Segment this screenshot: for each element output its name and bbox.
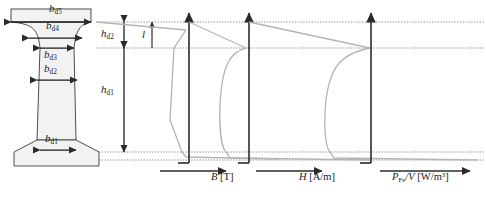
plot-field-strength: [189, 13, 372, 171]
plot-iron-loss-density: [249, 13, 478, 171]
label-stack-length: l: [142, 29, 145, 40]
axis-label-iron-loss-density: PFe/V [W/m3]: [392, 172, 449, 184]
label-bd3: bd3: [44, 49, 57, 62]
label-bd4: bd4: [46, 20, 59, 33]
label-hd1: hd1: [101, 84, 114, 97]
diagram-canvas: [0, 0, 486, 198]
label-bd5: bd5: [49, 3, 62, 16]
label-hd2: hd2: [101, 28, 114, 41]
tooth-flux-diagram: bd5 bd4 bd3 bd2 bd1 hd2 hd1 l B [T] H [A…: [0, 0, 486, 198]
plot-flux-density: [96, 13, 278, 171]
label-bd2: bd2: [44, 63, 57, 76]
axis-label-flux-density: B [T]: [211, 172, 233, 183]
axis-label-field-strength: H [A/m]: [299, 172, 335, 183]
guide-lines: [96, 22, 484, 160]
label-bd1: bd1: [45, 133, 58, 146]
